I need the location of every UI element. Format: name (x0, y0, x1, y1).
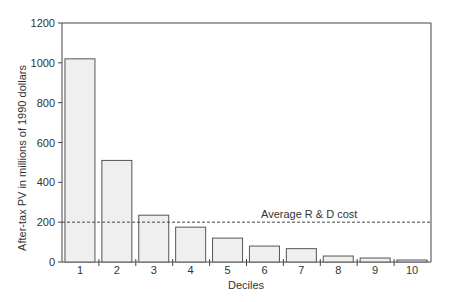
bar-decile-6 (249, 246, 279, 262)
x-tick-label: 2 (114, 264, 120, 276)
y-tick-label: 600 (37, 137, 55, 149)
x-tick-label: 3 (151, 264, 157, 276)
y-tick-label: 800 (37, 97, 55, 109)
y-axis: 020040060080010001200 (31, 17, 62, 268)
x-tick-label: 7 (298, 264, 304, 276)
bar-decile-2 (102, 160, 132, 262)
x-tick-label: 6 (261, 264, 267, 276)
bar-decile-7 (286, 249, 316, 262)
average-rd-cost-label: Average R & D cost (261, 208, 357, 220)
x-tick-label: 1 (77, 264, 83, 276)
x-tick-label: 5 (224, 264, 230, 276)
x-axis-title: Deciles (228, 279, 265, 291)
y-tick-label: 200 (37, 216, 55, 228)
y-tick-label: 1200 (31, 17, 55, 29)
bars (65, 59, 427, 262)
y-axis-title: After-tax PV in millions of 1990 dollars (16, 65, 28, 251)
y-tick-label: 0 (49, 256, 55, 268)
x-tick-label: 8 (335, 264, 341, 276)
bar-decile-4 (176, 227, 206, 262)
x-tick-label: 9 (372, 264, 378, 276)
bar-decile-8 (323, 256, 353, 262)
x-tick-label: 4 (188, 264, 194, 276)
bar-decile-5 (213, 238, 243, 262)
y-tick-label: 400 (37, 176, 55, 188)
x-tick-label: 10 (406, 264, 418, 276)
bar-chart: 020040060080010001200 12345678910 Averag… (0, 0, 449, 302)
bar-decile-1 (65, 59, 95, 262)
y-tick-label: 1000 (31, 57, 55, 69)
bar-decile-9 (360, 258, 390, 262)
bar-decile-10 (397, 260, 427, 262)
